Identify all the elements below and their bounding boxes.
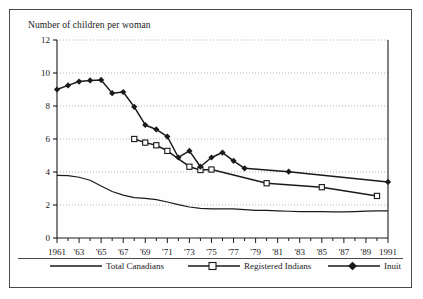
series-total-canadians — [57, 175, 388, 212]
y-axis-label: 0 — [46, 233, 51, 243]
y-axis-label: 6 — [46, 134, 51, 144]
x-axis-label: '83 — [294, 247, 305, 257]
x-axis-label: 1991 — [379, 247, 397, 257]
legend-open-square-icon — [188, 261, 240, 271]
x-axis-label: '85 — [316, 247, 327, 257]
y-axis-label: 10 — [41, 68, 51, 78]
legend-line-icon — [50, 261, 102, 271]
x-axis-label: '75 — [206, 247, 217, 257]
legend-filled-diamond-icon — [328, 261, 380, 271]
x-axis-label: '77 — [228, 247, 239, 257]
legend-label: Total Canadians — [106, 261, 164, 271]
x-axis-label: '81 — [272, 247, 283, 257]
x-axis-label: '67 — [118, 247, 129, 257]
y-axis-label: 2 — [46, 200, 51, 210]
legend-label: Inuit — [384, 261, 401, 271]
x-axis-label: '87 — [339, 247, 350, 257]
x-axis-label: '73 — [184, 247, 195, 257]
legend-label: Registered Indians — [244, 261, 311, 271]
x-axis-label: '69 — [140, 247, 151, 257]
x-axis-label: 1961 — [48, 247, 66, 257]
chart-frame: Number of children per woman 02468101219… — [9, 9, 412, 288]
series-registered-indians — [132, 136, 380, 198]
series-inuit — [54, 77, 391, 185]
y-axis-label: 8 — [46, 101, 51, 111]
x-axis-label: '89 — [361, 247, 372, 257]
chart-legend: Total Canadians Registered Indians Inuit — [10, 258, 411, 280]
y-axis-label: 12 — [41, 35, 50, 45]
x-axis-label: '79 — [250, 247, 261, 257]
chart-plot-area: 0246810121961'63'65'67'69'71'73'75'77'79… — [10, 10, 413, 289]
x-axis-label: '71 — [162, 247, 173, 257]
y-axis-label: 4 — [46, 167, 51, 177]
x-axis-label: '63 — [74, 247, 85, 257]
x-axis-label: '65 — [96, 247, 107, 257]
legend-divider — [18, 258, 403, 259]
